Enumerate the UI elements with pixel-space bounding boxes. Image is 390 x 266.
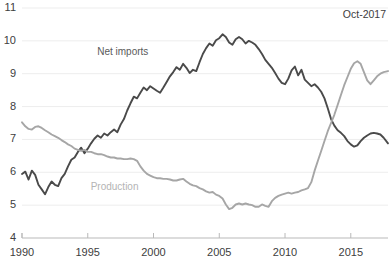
y-tick-label-4: 4 <box>0 232 16 243</box>
series-line-production <box>22 61 388 209</box>
series-label-net-imports: Net imports <box>97 46 148 57</box>
y-tick-label-5: 5 <box>0 199 16 210</box>
y-tick-label-7: 7 <box>0 133 16 144</box>
x-axis <box>22 233 388 238</box>
x-tick-label-2015: 2015 <box>331 247 371 258</box>
x-tick-label-2010: 2010 <box>265 247 305 258</box>
date-annotation: Oct-2017 <box>343 8 386 20</box>
x-tick-label-1995: 1995 <box>68 247 108 258</box>
series-lines <box>22 34 388 209</box>
y-tick-label-6: 6 <box>0 166 16 177</box>
gridlines <box>22 8 388 205</box>
y-tick-label-10: 10 <box>0 35 16 46</box>
x-tick-label-2005: 2005 <box>199 247 239 258</box>
x-tick-label-2000: 2000 <box>134 247 174 258</box>
y-tick-label-11: 11 <box>0 2 16 13</box>
y-tick-label-9: 9 <box>0 68 16 79</box>
series-label-production: Production <box>91 181 139 192</box>
y-tick-label-8: 8 <box>0 101 16 112</box>
chart-container: 4567891011 199019952000200520102015 Net … <box>0 0 390 266</box>
x-tick-label-1990: 1990 <box>2 247 42 258</box>
chart-plot-area <box>0 0 390 266</box>
series-line-net-imports <box>22 34 388 194</box>
